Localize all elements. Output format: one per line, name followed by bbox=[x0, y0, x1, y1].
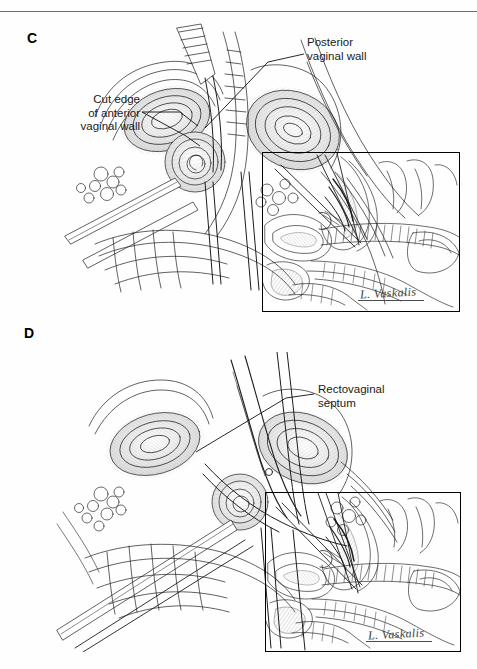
running-head-rule bbox=[0, 11, 477, 12]
illustration-page: C bbox=[0, 0, 477, 669]
panel-letter-d: D bbox=[24, 325, 34, 341]
panel-letter-c: C bbox=[27, 30, 37, 46]
callout-posterior-vaginal-wall: Posterior vaginal wall bbox=[307, 36, 427, 63]
callout-cut-edge-of-anterior-vaginal-wall: Cut edge of anterior vaginal wall bbox=[28, 93, 140, 134]
signature-underline-d bbox=[366, 641, 432, 642]
panel-d-inset-frame bbox=[265, 492, 461, 652]
signature-underline-c bbox=[358, 300, 424, 301]
callout-rectovaginal-septum: Rectovaginal septum bbox=[318, 383, 443, 410]
